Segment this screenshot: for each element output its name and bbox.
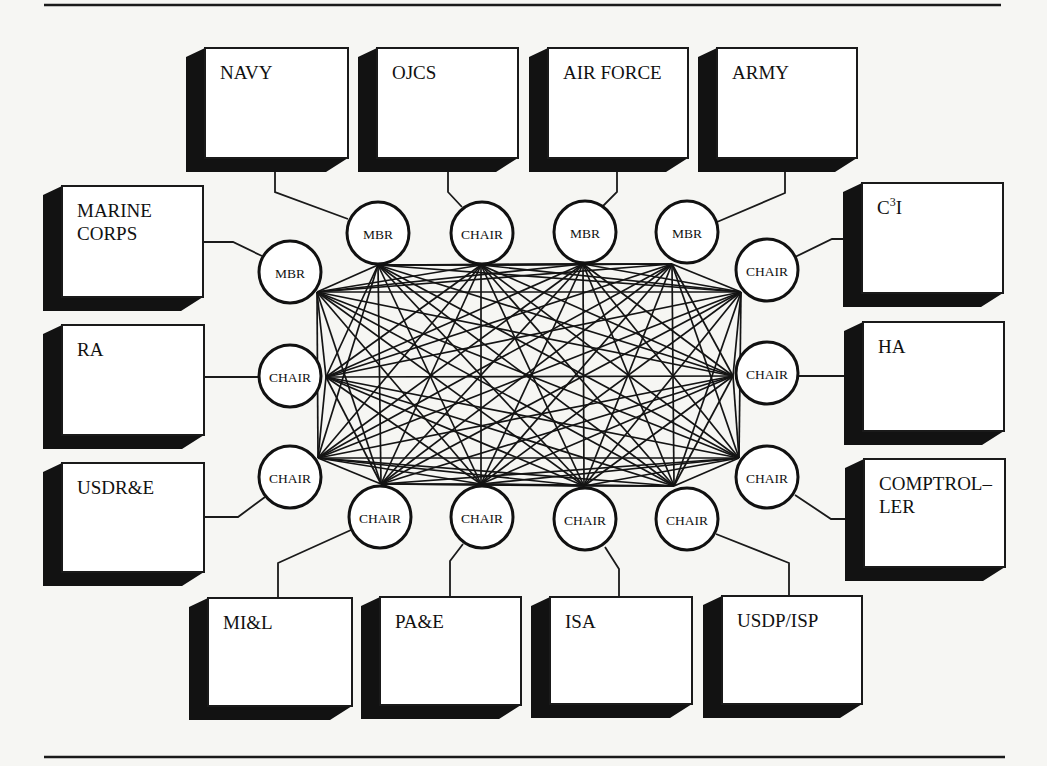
connector-pae <box>450 544 463 597</box>
connector-usdre <box>204 497 265 517</box>
box-label: MI&L <box>223 612 273 633</box>
box-label: USDP/ISP <box>737 610 818 631</box>
node-army-node[interactable]: MBR <box>656 201 718 263</box>
committee-network-diagram: NAVYOJCSAIR FORCEARMYMARINECORPSRAUSDR&E… <box>0 0 1047 766</box>
node-ojcs-node[interactable]: CHAIR <box>451 202 513 264</box>
box-label-base: C <box>877 197 890 218</box>
member-label: MBR <box>672 226 702 241</box>
chair-label: CHAIR <box>269 471 311 486</box>
box-label: ARMY <box>732 62 789 83</box>
node-navy-node[interactable]: MBR <box>347 202 409 264</box>
org-box-isa[interactable]: ISA <box>531 597 692 718</box>
connector-c3i <box>795 239 843 257</box>
org-box-mil[interactable]: MI&L <box>189 598 352 720</box>
node-usdp-isp-node[interactable]: CHAIR <box>656 488 718 550</box>
box-label: OJCS <box>392 62 436 83</box>
box-label: C3I <box>877 195 902 218</box>
network-edge <box>481 292 741 484</box>
connector-air-force <box>603 172 617 206</box>
org-box-ra[interactable]: RA <box>43 325 204 449</box>
member-label: MBR <box>363 227 393 242</box>
connector-usdp-isp <box>716 534 789 596</box>
connector-marine-corps <box>203 242 262 256</box>
node-air-force-node[interactable]: MBR <box>554 201 616 263</box>
organization-boxes: NAVYOJCSAIR FORCEARMYMARINECORPSRAUSDR&E… <box>43 48 1005 720</box>
chair-label: CHAIR <box>564 513 606 528</box>
connector-comptroller <box>795 495 845 519</box>
org-box-pae[interactable]: PA&E <box>361 597 521 719</box>
org-box-marine-corps[interactable]: MARINECORPS <box>43 186 203 311</box>
org-box-c3i[interactable]: C3I <box>843 183 1003 307</box>
node-isa-node[interactable]: CHAIR <box>554 488 616 550</box>
box-label: COMPTROL– <box>879 473 992 494</box>
org-box-ojcs[interactable]: OJCS <box>358 48 518 172</box>
box-label: CORPS <box>77 223 137 244</box>
chair-label: CHAIR <box>666 513 708 528</box>
network-edge <box>378 265 381 484</box>
org-box-usdp-isp[interactable]: USDP/ISP <box>703 596 862 718</box>
node-ha-node[interactable]: CHAIR <box>736 342 798 404</box>
connector-mil <box>278 530 351 598</box>
member-label: MBR <box>275 266 305 281</box>
chair-label: CHAIR <box>746 471 788 486</box>
box-label-suffix: I <box>896 197 902 218</box>
box-label: AIR FORCE <box>563 62 662 83</box>
org-box-ha[interactable]: HA <box>844 322 1004 445</box>
node-usdre-node[interactable]: CHAIR <box>259 446 321 508</box>
org-box-army[interactable]: ARMY <box>698 48 857 172</box>
box-label: ISA <box>565 611 596 632</box>
org-box-usdre[interactable]: USDR&E <box>43 463 204 586</box>
network-edges <box>317 264 741 486</box>
connector-isa <box>605 547 619 597</box>
org-box-air-force[interactable]: AIR FORCE <box>529 48 688 172</box>
box-label: LER <box>879 496 915 517</box>
member-label: MBR <box>570 226 600 241</box>
node-marine-corps-node[interactable]: MBR <box>259 241 321 303</box>
box-label: MARINE <box>77 200 152 221</box>
node-mil-node[interactable]: CHAIR <box>349 486 411 548</box>
box-label: USDR&E <box>77 477 154 498</box>
node-comptroller-node[interactable]: CHAIR <box>736 446 798 508</box>
box-label: HA <box>878 336 906 357</box>
org-box-comptroller[interactable]: COMPTROL–LER <box>845 459 1005 581</box>
chair-label: CHAIR <box>461 227 503 242</box>
node-pae-node[interactable]: CHAIR <box>451 486 513 548</box>
node-c3i-node[interactable]: CHAIR <box>736 239 798 301</box>
chair-label: CHAIR <box>461 511 503 526</box>
connector-navy <box>275 172 348 219</box>
connector-ojcs <box>448 172 462 207</box>
network-edge <box>481 458 739 484</box>
network-edge <box>318 458 481 484</box>
box-label: RA <box>77 339 104 360</box>
network-edge <box>674 376 733 486</box>
chair-label: CHAIR <box>746 264 788 279</box>
chair-label: CHAIR <box>269 370 311 385</box>
box-label: PA&E <box>395 611 444 632</box>
org-box-navy[interactable]: NAVY <box>186 48 348 172</box>
node-ra-node[interactable]: CHAIR <box>259 345 321 407</box>
box-label: NAVY <box>220 62 273 83</box>
chair-label: CHAIR <box>746 367 788 382</box>
chair-label: CHAIR <box>359 511 401 526</box>
connector-army <box>717 172 785 222</box>
